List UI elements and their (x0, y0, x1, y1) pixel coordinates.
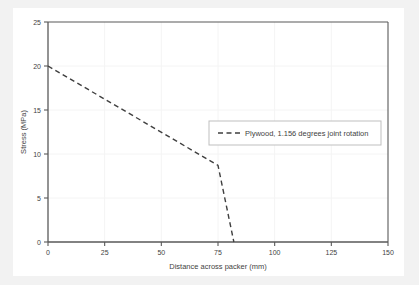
legend-label-plywood: Plywood, 1.156 degrees joint rotation (245, 129, 368, 138)
chart-canvas: 0 5 10 15 20 25 0 25 50 75 100 125 150 D… (13, 8, 404, 276)
y-tick-label-20: 20 (33, 63, 41, 70)
x-tick-label-75: 75 (214, 249, 222, 256)
x-tick-label-100: 100 (269, 249, 281, 256)
x-tick-label-150: 150 (382, 249, 394, 256)
x-tick-label-25: 25 (101, 249, 109, 256)
y-tick-label-10: 10 (33, 151, 41, 158)
x-tick-label-50: 50 (157, 249, 165, 256)
x-axis-title: Distance across packer (mm) (169, 262, 267, 271)
y-tick-label-15: 15 (33, 107, 41, 114)
y-tick-label-5: 5 (37, 195, 41, 202)
chart-figure: 0 5 10 15 20 25 0 25 50 75 100 125 150 D… (0, 0, 419, 285)
legend[interactable]: Plywood, 1.156 degrees joint rotation (209, 121, 381, 145)
x-tick-label-125: 125 (325, 249, 337, 256)
y-tick-label-25: 25 (33, 19, 41, 26)
y-tick-label-0: 0 (37, 239, 41, 246)
line-chart: 0 5 10 15 20 25 0 25 50 75 100 125 150 D… (13, 8, 404, 276)
x-tick-label-0: 0 (46, 249, 50, 256)
y-axis-title: Stress (MPa) (19, 110, 28, 154)
